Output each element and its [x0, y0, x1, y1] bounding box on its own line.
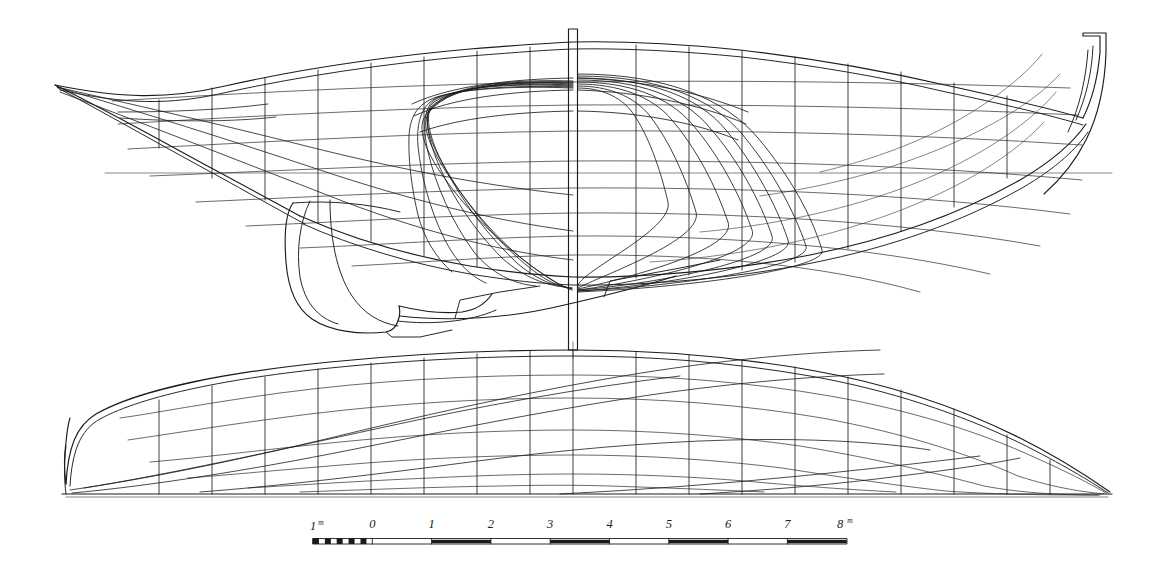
plan-stations — [159, 350, 1050, 494]
scale-label-right: 8 — [837, 517, 844, 531]
scale-label-left: 1 — [310, 519, 316, 533]
plan-diagonals — [70, 350, 1020, 494]
plan-deck-edge — [66, 350, 1110, 492]
sheer-profile-view — [55, 29, 1112, 350]
scale-label-left-sup: m — [318, 518, 324, 527]
counter-underside-2 — [58, 88, 305, 224]
scale-tick-2: 2 — [488, 517, 494, 531]
lines-plan-sheet: 1 m 0 1 2 3 4 5 6 7 8 m — [0, 0, 1168, 573]
scale-bar: 1 m 0 1 2 3 4 5 6 7 8 m — [310, 516, 853, 544]
scale-label-right-sup: m — [847, 516, 853, 525]
scale-tick-0: 0 — [369, 517, 376, 531]
scale-tick-7: 7 — [784, 517, 791, 531]
profile-forebody-fairings — [650, 54, 1060, 262]
bow-stem — [1044, 33, 1106, 194]
profile-waterlines — [112, 81, 1082, 292]
scale-tick-6: 6 — [725, 517, 732, 531]
scale-tick-4: 4 — [606, 517, 612, 531]
half-breadth-plan-view — [62, 342, 1112, 497]
scale-tick-1: 1 — [428, 517, 434, 531]
scale-bar-labels: 1 m 0 1 2 3 4 5 6 7 8 m — [310, 516, 853, 533]
scale-bar-subdivisions — [313, 539, 366, 545]
scale-tick-3: 3 — [546, 517, 553, 531]
lines-plan-drawing: 1 m 0 1 2 3 4 5 6 7 8 m — [0, 0, 1168, 573]
scale-tick-5: 5 — [666, 517, 672, 531]
scale-bar-segments — [432, 540, 847, 543]
plan-waterlines — [120, 375, 1106, 495]
